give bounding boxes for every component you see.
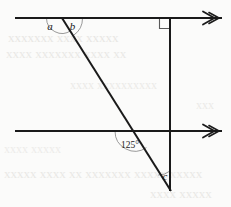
transversal-line [62,18,171,191]
angle-label-c: c [163,170,168,182]
geometry-figure: xxxxxxx xxxx xxxxx xxxx xxxxxxx xxxx xx … [0,0,231,207]
angle-label-b: b [70,20,76,32]
angle-label-a: a [47,20,53,32]
right-angle-marker-icon [160,18,171,29]
geometry-diagram-canvas: a b 125° c [0,0,231,207]
angle-label-125: 125° [121,140,139,150]
